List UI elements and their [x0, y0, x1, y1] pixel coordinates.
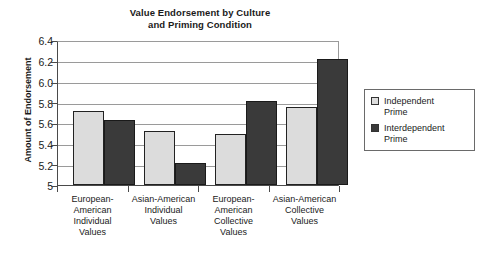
gridline-6-0 — [58, 83, 338, 84]
legend-label-line: Prime — [384, 134, 408, 144]
x-tick-mark-0 — [57, 186, 58, 192]
legend-label-line: Prime — [384, 107, 408, 117]
category-label-line: Values — [266, 216, 343, 227]
category-label-european-american-collective: European- American Collective Values — [198, 194, 269, 238]
x-tick-mark-3 — [269, 186, 270, 192]
y-tick-label-6-2: 6.2 — [13, 57, 53, 68]
bar-independent-asian-american-collective — [286, 107, 317, 185]
category-label-line: Values — [198, 227, 269, 238]
category-label-line: American — [57, 205, 128, 216]
bar-independent-european-american-individual — [73, 111, 104, 185]
y-tick-label-5-2: 5.2 — [13, 161, 53, 172]
category-label-line: Asian-American — [266, 194, 343, 205]
category-label-line: Values — [57, 227, 128, 238]
chart-title-line-1: Value Endorsement by Culture — [60, 7, 340, 19]
y-tick-label-5-8: 5.8 — [13, 99, 53, 110]
x-tick-mark-1 — [128, 186, 129, 192]
legend-item-interdependent-prime: Interdependent Prime — [371, 123, 469, 144]
category-label-line: Values — [126, 216, 201, 227]
y-tick-label-5-4: 5.4 — [13, 140, 53, 151]
category-label-line: Individual — [57, 216, 128, 227]
y-tick-label-6-0: 6.0 — [13, 78, 53, 89]
category-label-line: Asian-American — [126, 194, 201, 205]
category-label-line: European- — [198, 194, 269, 205]
y-tick-label-5-0: 5 — [13, 181, 53, 192]
legend-label-line: Independent — [384, 96, 434, 106]
legend-label-independent-prime: Independent Prime — [384, 96, 434, 117]
legend-swatch-independent-prime — [371, 97, 379, 105]
legend-swatch-interdependent-prime — [371, 124, 379, 132]
category-label-line: Individual — [126, 205, 201, 216]
gridline-5-8 — [58, 104, 338, 105]
chart-title: Value Endorsement by Culture and Priming… — [60, 7, 340, 30]
category-label-asian-american-individual: Asian-American Individual Values — [126, 194, 201, 227]
category-label-line: American — [198, 205, 269, 216]
x-tick-mark-2 — [198, 186, 199, 192]
y-tick-label-5-6: 5.6 — [13, 119, 53, 130]
bar-interdependent-european-american-individual — [104, 120, 135, 185]
bar-interdependent-asian-american-collective — [317, 59, 348, 185]
chart-title-line-2: and Priming Condition — [60, 19, 340, 31]
bar-interdependent-asian-american-individual — [175, 163, 206, 185]
bar-interdependent-european-american-collective — [246, 101, 277, 185]
category-label-line: European- — [57, 194, 128, 205]
gridline-6-2 — [58, 62, 338, 63]
y-tick-label-6-4: 6.4 — [13, 36, 53, 47]
legend-label-interdependent-prime: Interdependent Prime — [384, 123, 445, 144]
bar-independent-european-american-collective — [215, 134, 246, 185]
legend-label-line: Interdependent — [384, 123, 445, 133]
bar-chart-figure: Value Endorsement by Culture and Priming… — [0, 0, 484, 258]
chart-legend: Independent Prime Interdependent Prime — [364, 89, 475, 151]
bar-independent-asian-american-individual — [144, 131, 175, 185]
x-tick-mark-4 — [339, 186, 340, 192]
category-label-line: Collective — [266, 205, 343, 216]
category-label-european-american-individual: European- American Individual Values — [57, 194, 128, 238]
plot-area — [57, 41, 339, 186]
category-label-asian-american-collective: Asian-American Collective Values — [266, 194, 343, 227]
legend-item-independent-prime: Independent Prime — [371, 96, 469, 117]
category-label-line: Collective — [198, 216, 269, 227]
